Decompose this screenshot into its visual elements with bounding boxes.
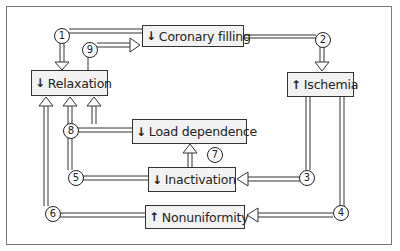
arrow-down-icon: ↓ [136,125,146,139]
node-inactivation: ↓ Inactivation [148,167,236,192]
node-label: Nonuniformity [162,210,249,225]
node-label: Relaxation [48,76,112,91]
link-marker-2: 2 [315,32,331,48]
link-marker-3: 3 [299,170,315,186]
link-marker-8: 8 [63,123,79,139]
link-marker-7: 7 [207,147,223,163]
link-marker-6: 6 [45,206,61,222]
link-marker-4: 4 [333,205,349,221]
node-coronary-filling: ↓ Coronary filling [142,25,244,47]
node-ischemia: ↑ Ischemia [287,72,354,97]
node-nonuniformity: ↑ Nonuniformity [145,205,245,229]
diagram-canvas: ↓ Coronary filling ↓ Relaxation ↑ Ischem… [0,0,400,251]
node-label: Load dependence [149,124,257,139]
link-marker-1: 1 [54,28,70,44]
arrow-down-icon: ↓ [35,76,45,90]
arrow-1 [55,62,69,70]
arrow-up-icon: ↑ [149,210,159,224]
link-marker-5: 5 [68,170,84,186]
arrow-down-icon: ↓ [152,173,162,187]
node-relaxation: ↓ Relaxation [31,70,108,96]
node-label: Inactivation [165,172,236,187]
link-marker-9: 9 [82,42,98,58]
node-label: Ischemia [304,77,358,92]
arrow-down-icon: ↓ [146,29,156,43]
arrow-up-icon: ↑ [291,78,301,92]
node-load-dependence: ↓ Load dependence [132,119,247,144]
node-label: Coronary filling [159,29,251,44]
